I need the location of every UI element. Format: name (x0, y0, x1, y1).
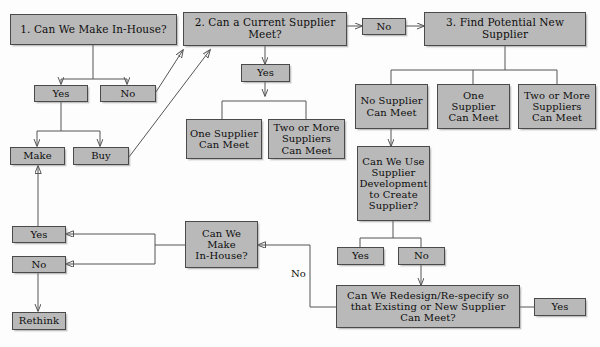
wire-no-to-q2 (156, 50, 183, 92)
node-redesign-yes[interactable]: Yes (534, 298, 586, 316)
wire-q1-split-right (93, 79, 127, 84)
node-make[interactable]: Make (10, 147, 65, 165)
node-q2-yes[interactable]: Yes (241, 64, 290, 82)
node-final-no[interactable]: No (12, 256, 66, 273)
node-q1-make-in-house[interactable]: 1. Can We Make In-House? (10, 14, 177, 45)
node-one-supplier-can-meet[interactable]: One Supplier Can Meet (186, 119, 262, 159)
node-two-or-more-suppliers-can-meet[interactable]: Two or More Suppliers Can Meet (268, 119, 345, 159)
flowchart-canvas: 1. Can We Make In-House? 2. Can a Curren… (0, 0, 600, 347)
wire-yes-split-left (37, 101, 61, 146)
node-buy[interactable]: Buy (73, 147, 129, 165)
node-q1-no[interactable]: No (100, 85, 156, 102)
node-q2-current-supplier[interactable]: 2. Can a Current Supplier Meet? (183, 12, 347, 46)
node-two-or-more-suppliers-can-meet-alt[interactable]: Two or More Suppliers Can Meet (518, 84, 596, 129)
node-q2-no[interactable]: No (362, 18, 406, 35)
node-one-supplier-can-meet-alt[interactable]: One Supplier Can Meet (437, 84, 510, 129)
node-final-yes[interactable]: Yes (12, 226, 66, 243)
node-dev-yes[interactable]: Yes (337, 247, 384, 265)
edge-label-redesign-no: No (291, 268, 306, 279)
wire-yes-split-right (61, 131, 100, 146)
node-supplier-development[interactable]: Can We Use Supplier Development to Creat… (357, 146, 430, 221)
node-make-in-house-again[interactable]: Can We Make In-House? (185, 221, 258, 268)
node-redesign[interactable]: Can We Redesign/Re-specify so that Exist… (336, 285, 520, 328)
node-no-supplier-can-meet[interactable]: No Supplier Can Meet (355, 84, 428, 129)
node-dev-no[interactable]: No (398, 247, 445, 265)
wire-q1-split (61, 45, 93, 84)
wire-mih-to-yes (66, 234, 155, 245)
node-q3-find-new-supplier[interactable]: 3. Find Potential New Supplier (424, 12, 586, 46)
wire-mih-to-no (66, 245, 155, 264)
node-q1-yes[interactable]: Yes (34, 85, 88, 102)
node-rethink[interactable]: Rethink (12, 312, 66, 330)
